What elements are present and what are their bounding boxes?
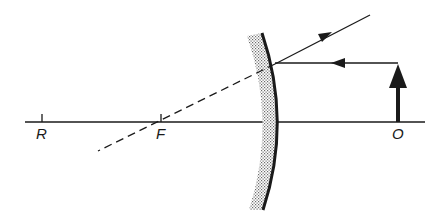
ray-diagram: R F O (0, 0, 436, 220)
label-o: O (392, 125, 404, 142)
incident-ray-arrowhead-icon (331, 58, 345, 68)
label-f: F (156, 125, 166, 142)
object-arrowhead-icon (389, 64, 407, 88)
label-r: R (36, 125, 47, 142)
virtual-ray-extension (98, 64, 275, 151)
